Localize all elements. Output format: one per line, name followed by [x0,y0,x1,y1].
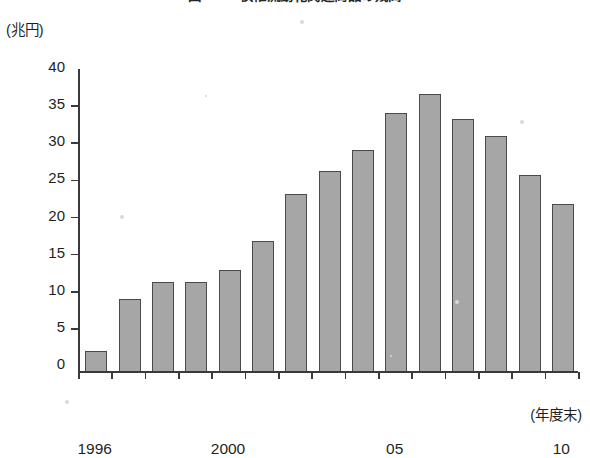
x-axis-tick-mark [211,372,213,379]
bar-05 [385,113,407,371]
x-axis-unit-label: (年度末) [530,403,582,424]
y-axis-unit-label: (兆円) [6,18,44,39]
x-axis-tick-label: 10 [553,440,570,458]
y-axis-tick-label: 10 [48,281,65,298]
bar-2008 [485,136,507,371]
x-axis-tick-mark [145,372,147,379]
x-axis-tick-mark [511,372,513,379]
x-axis-tick-label: 05 [386,440,403,458]
x-axis-tick-label: 1996 [77,440,111,458]
bar-2006 [419,94,441,371]
y-axis-tick-label: 40 [48,58,65,75]
y-axis-tick-label: 35 [48,95,65,112]
y-axis-tick-label: 30 [48,132,65,149]
y-axis-tick-mark [71,328,78,330]
bar-series [80,62,578,371]
y-axis-tick-mark [71,217,78,219]
bar-2007 [452,119,474,371]
y-axis-tick-mark [71,142,78,144]
y-axis-tick-label: 0 [57,355,65,372]
bar-1996 [85,351,107,372]
bar-2002 [285,194,307,371]
y-axis-tick-mark [71,365,78,367]
y-axis-tick-mark [71,105,78,107]
y-axis-tick-label: 5 [57,318,65,335]
y-axis-tick-label: 20 [48,207,65,224]
bar-2001 [252,241,274,372]
bar-2004 [352,150,374,371]
x-axis-tick-mark [411,372,413,379]
x-axis-tick-mark [78,372,80,379]
chart-title: 図2−1 債権流動化関連商品の残高 [0,0,590,3]
x-axis-tick-label: 2000 [211,440,245,458]
y-axis-tick-mark [71,180,78,182]
x-axis-tick-mark [311,372,313,379]
x-axis-ticks [78,372,578,380]
bar-2000 [219,270,241,372]
x-axis-tick-mark [278,372,280,379]
bar-1998 [152,282,174,371]
y-axis-tick-mark [71,291,78,293]
plot-area: 4035302520151050 199620000510 [78,62,578,373]
y-axis-tick-mark [71,68,78,70]
scan-speckle [300,20,304,24]
x-axis-tick-mark [445,372,447,379]
y-axis-tick-label: 15 [48,244,65,261]
bar-1999 [185,282,207,371]
x-axis-tick-mark [245,372,247,379]
y-axis-tick-mark [71,254,78,256]
x-axis-tick-mark [545,372,547,379]
bar-2003 [319,171,341,371]
x-axis-tick-mark [111,372,113,379]
y-axis-tick-label: 25 [48,169,65,186]
x-axis-tick-mark [378,372,380,379]
x-axis-tick-mark [478,372,480,379]
bar-2009 [519,175,541,372]
x-axis-tick-mark [345,372,347,379]
scan-speckle [65,400,69,404]
x-axis-tick-mark [178,372,180,379]
bar-1997 [119,299,141,372]
bar-10 [552,204,574,371]
x-axis-tick-mark [578,372,580,379]
